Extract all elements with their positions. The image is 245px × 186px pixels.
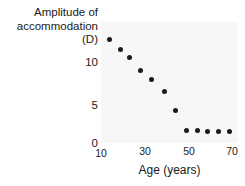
data-point [138, 68, 143, 73]
data-point [205, 129, 210, 134]
x-tick-label-50: 50 [176, 145, 202, 157]
data-point [162, 89, 167, 94]
data-point [216, 129, 221, 134]
data-point [184, 128, 189, 133]
x-tick-label-70: 70 [219, 145, 245, 157]
x-tick-label-30: 30 [132, 145, 158, 157]
x-tick-label-10: 10 [88, 147, 114, 159]
data-point [107, 37, 112, 42]
data-point [118, 47, 123, 52]
data-point [173, 108, 178, 113]
scatter-chart-figure: Amplitude of accommodation (D) 10 5 0 10… [0, 0, 245, 186]
y-axis-title-line-2: accommodation [2, 20, 98, 34]
x-axis-title: Age (years) [101, 163, 238, 177]
data-point [149, 77, 154, 82]
y-tick-label-5: 5 [72, 99, 98, 111]
y-axis-title-line-1: Amplitude of [2, 6, 98, 20]
y-axis-title-line-3: (D) [2, 33, 98, 47]
data-point [227, 129, 232, 134]
data-point [127, 55, 132, 60]
plot-area [101, 22, 238, 143]
data-point [195, 128, 200, 133]
y-tick-label-10: 10 [72, 56, 98, 68]
y-axis-title: Amplitude of accommodation (D) [2, 6, 98, 47]
